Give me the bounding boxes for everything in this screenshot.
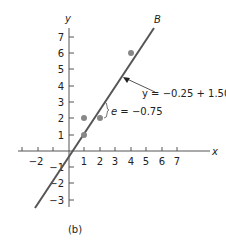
equation-label: y = −0.25 + 1.50x <box>142 88 226 99</box>
svg-text:4: 4 <box>128 156 134 167</box>
svg-text:6: 6 <box>58 48 64 59</box>
residual-label: e = −0.75 <box>111 106 163 117</box>
y-axis-label: y <box>64 13 72 24</box>
svg-text:7: 7 <box>58 32 64 43</box>
x-axis-label: x <box>211 146 218 157</box>
svg-text:5: 5 <box>58 64 64 75</box>
data-point <box>81 132 87 138</box>
data-point <box>97 115 103 121</box>
svg-text:6: 6 <box>159 156 165 167</box>
figure-caption: (b) <box>68 224 82 235</box>
svg-text:−3: −3 <box>49 195 64 206</box>
residual-brace <box>104 102 109 118</box>
svg-text:1: 1 <box>58 130 64 141</box>
y-ticks <box>69 37 74 200</box>
svg-text:3: 3 <box>58 97 64 108</box>
x-ticks <box>22 147 177 151</box>
svg-text:−2: −2 <box>29 156 44 167</box>
regression-line <box>35 28 154 208</box>
svg-text:5: 5 <box>143 156 149 167</box>
y-tick-labels: 7 6 5 4 3 2 1 −1 −2 −3 <box>49 32 64 206</box>
svg-text:2: 2 <box>97 156 103 167</box>
svg-text:7: 7 <box>174 156 180 167</box>
data-point <box>81 115 87 121</box>
data-point <box>128 50 134 56</box>
svg-text:3: 3 <box>112 156 118 167</box>
svg-text:1: 1 <box>81 156 87 167</box>
svg-text:4: 4 <box>58 81 64 92</box>
scatter-chart: −2 1 2 3 4 5 6 7 7 6 5 4 3 2 1 −1 −2 −3 … <box>0 0 226 246</box>
line-label: B <box>154 14 161 25</box>
svg-text:2: 2 <box>58 113 64 124</box>
